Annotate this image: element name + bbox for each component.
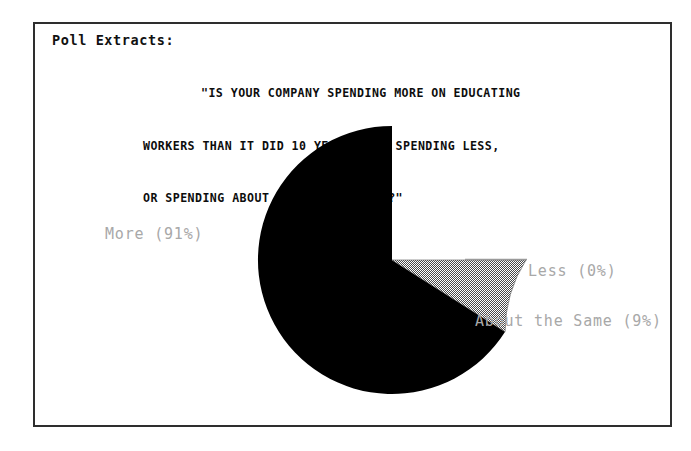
pie-label-less: Less (0%) [528,262,616,280]
pie-label-about-the-same: About the Same (9%) [475,312,662,330]
pie-label-more: More (91%) [105,225,203,243]
pie-chart: More (91%) Less (0%) About the Same (9%) [35,24,674,429]
poll-extract-frame: Poll Extracts: "IS YOUR COMPANY SPENDING… [33,22,672,427]
